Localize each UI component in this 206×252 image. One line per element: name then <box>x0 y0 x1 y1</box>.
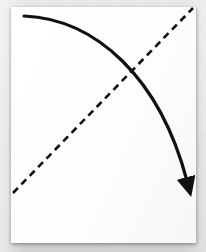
figure-drawing <box>0 0 206 252</box>
diagram-scene <box>0 0 206 252</box>
dashed-diagonal-line <box>13 8 193 193</box>
